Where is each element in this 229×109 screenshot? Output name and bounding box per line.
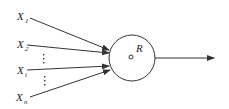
svg-text:X: X <box>16 64 25 76</box>
neuron-node <box>109 35 155 81</box>
neuron-diagram: X 1 X 2 X i X n R <box>0 0 229 109</box>
svg-text:X: X <box>15 91 24 103</box>
input-arrow-xn <box>30 70 110 97</box>
svg-text:i: i <box>25 71 27 79</box>
svg-text:X: X <box>16 10 25 22</box>
node-label: R <box>135 42 143 54</box>
input-arrow-xi <box>27 66 109 70</box>
input-arrow-x1 <box>30 18 109 50</box>
input-arrow-x2 <box>27 45 109 53</box>
svg-text:n: n <box>24 98 28 106</box>
input-label-xn: X n <box>15 91 28 106</box>
ellipsis-upper <box>43 54 44 63</box>
svg-text:2: 2 <box>25 45 29 53</box>
svg-text:X: X <box>16 38 25 50</box>
input-label-xi: X i <box>16 64 27 79</box>
ellipsis-lower <box>44 76 45 85</box>
input-label-x1: X 1 <box>16 10 29 25</box>
svg-text:1: 1 <box>25 17 29 25</box>
node-center-marker <box>129 55 133 59</box>
